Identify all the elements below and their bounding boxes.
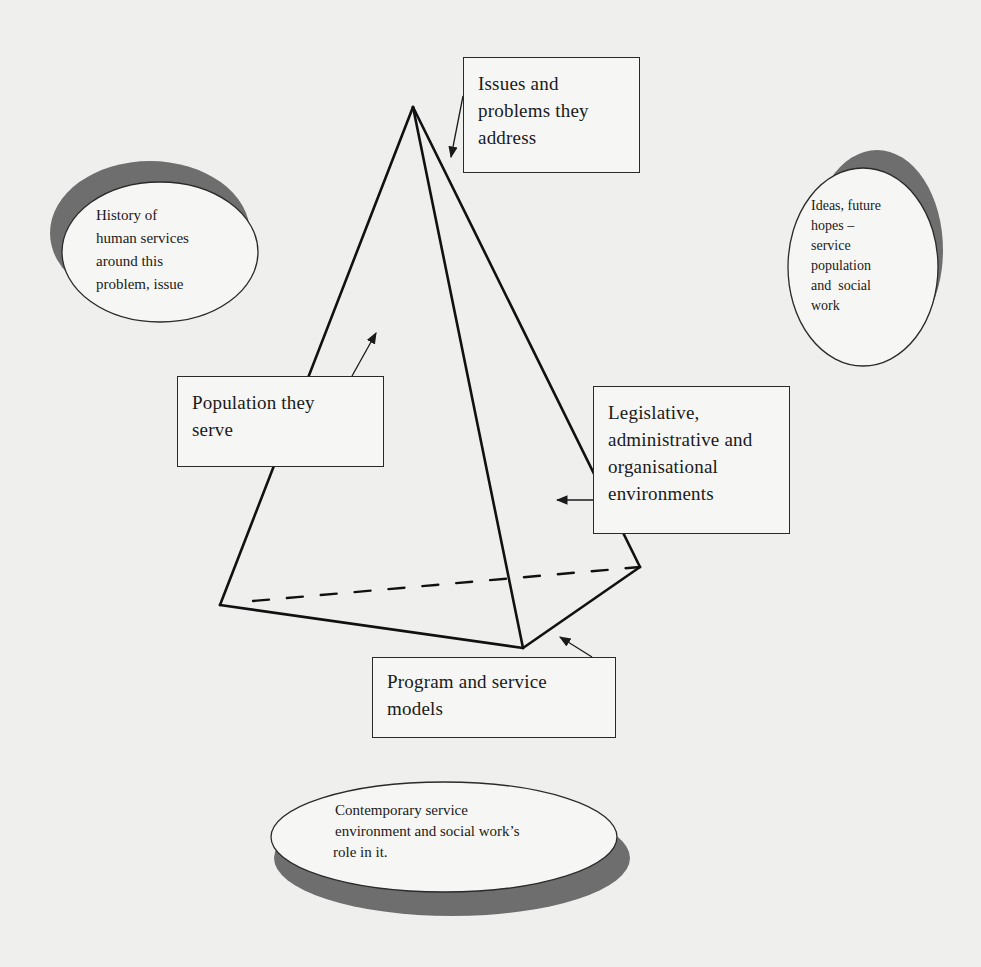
issues-box: Issues and problems they address [463,57,640,173]
legislative-line-1: Legislative, [608,399,775,426]
history-line-2: human services [96,227,189,250]
ideas-line-5: and social [811,276,881,296]
pyramid-base-front-right [523,567,640,648]
ideas-line-1: Ideas, future [811,196,881,216]
program-line-2: models [387,695,601,722]
pyramid-edge-left [220,107,413,605]
legislative-line-4: environments [608,480,775,507]
history-line-4: problem, issue [96,273,189,296]
ideas-ellipse-text: Ideas, future hopes – service population… [811,196,881,316]
population-box: Population they serve [177,376,384,467]
issues-line-3: address [478,124,625,151]
issues-line-2: problems they [478,97,625,124]
legislative-box: Legislative, administrative and organisa… [593,386,790,534]
ideas-line-2: hopes – [811,216,881,236]
issues-arrow [451,96,463,157]
issues-line-1: Issues and [478,70,625,97]
ideas-line-3: service [811,236,881,256]
pyramid-edge-front [413,107,523,648]
contemporary-line-2: environment and social work’s [335,821,520,842]
history-line-3: around this [96,250,189,273]
ideas-line-4: population [811,256,881,276]
contemporary-line-3: role in it. [333,842,520,863]
program-box: Program and service models [372,657,616,738]
program-arrow [560,637,592,657]
legislative-line-3: organisational [608,453,775,480]
history-ellipse-text: History of human services around this pr… [96,204,189,296]
contemporary-ellipse-text: Contemporary service environment and soc… [335,800,520,863]
history-line-1: History of [96,204,189,227]
population-line-1: Population they [192,389,369,416]
pyramid-base-hidden-edge [253,567,640,601]
legislative-line-2: administrative and [608,426,775,453]
pyramid-base-left-front [220,605,523,648]
population-arrow [352,333,376,376]
contemporary-line-1: Contemporary service [335,800,520,821]
ideas-line-6: work [811,296,881,316]
program-line-1: Program and service [387,668,601,695]
population-line-2: serve [192,416,369,443]
